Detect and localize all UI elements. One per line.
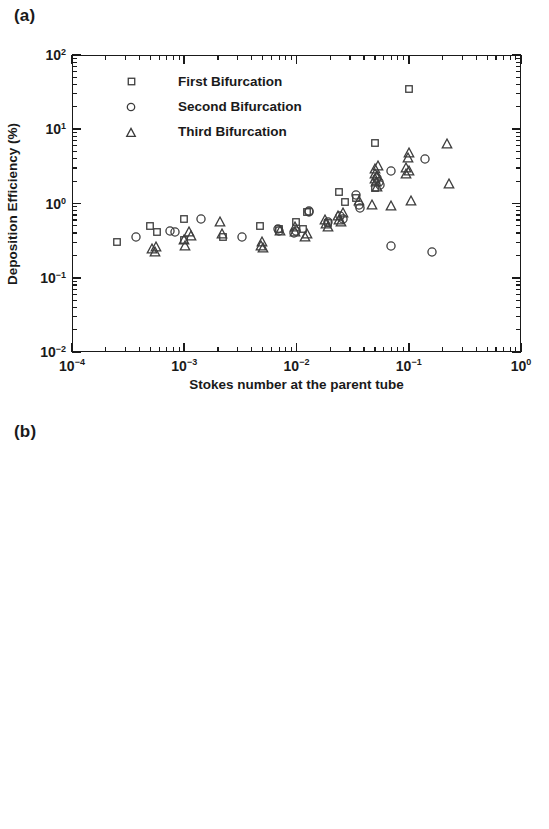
data-point-circle xyxy=(426,247,437,258)
y-tick-minor xyxy=(72,93,77,94)
x-tick-minor xyxy=(285,347,286,352)
x-tick-minor xyxy=(125,55,126,60)
y-tick-minor xyxy=(516,140,521,141)
data-point-triangle xyxy=(442,138,453,149)
y-tick-minor xyxy=(516,329,521,330)
legend-item: First Bifurcation xyxy=(112,69,302,94)
y-tick-major xyxy=(72,277,81,279)
x-tick-minor xyxy=(487,347,488,352)
x-tick-minor xyxy=(442,347,443,352)
y-tick-minor xyxy=(516,136,521,137)
y-tick-minor xyxy=(72,71,77,72)
x-tick-minor xyxy=(391,347,392,352)
legend-item: Third Bifurcation xyxy=(112,119,302,144)
legend-label: First Bifurcation xyxy=(178,74,282,89)
x-tick-minor xyxy=(510,347,511,352)
x-tick-minor xyxy=(279,55,280,60)
y-tick-minor xyxy=(516,284,521,285)
y-tick-minor xyxy=(72,151,77,152)
x-tick-minor xyxy=(271,347,272,352)
x-tick-major xyxy=(296,343,298,352)
data-point-circle xyxy=(386,166,397,177)
data-point-circle xyxy=(195,213,206,224)
y-tick-minor xyxy=(516,167,521,168)
y-tick-minor xyxy=(72,145,77,146)
y-tick-minor xyxy=(516,281,521,282)
y-tick-major xyxy=(512,277,521,279)
x-tick-minor xyxy=(159,347,160,352)
y-tick-minor xyxy=(72,158,77,159)
y-tick-minor xyxy=(516,58,521,59)
x-tick-minor xyxy=(397,55,398,60)
y-tick-minor xyxy=(72,255,77,256)
legend-label: Third Bifurcation xyxy=(178,124,287,139)
y-tick-major xyxy=(72,54,81,56)
x-tick-minor xyxy=(125,347,126,352)
x-tick-minor xyxy=(397,347,398,352)
data-point-triangle xyxy=(353,195,364,206)
plot-area-a: First Bifurcation Second Bifurcation Thi… xyxy=(72,55,521,352)
data-point-square xyxy=(180,214,189,223)
y-tick-minor xyxy=(516,300,521,301)
x-tick-minor xyxy=(383,55,384,60)
x-tick-minor xyxy=(349,55,350,60)
data-point-triangle xyxy=(290,226,301,237)
y-tick-minor xyxy=(516,181,521,182)
y-tick-minor xyxy=(516,225,521,226)
y-tick-minor xyxy=(72,242,77,243)
x-tick-minor xyxy=(159,55,160,60)
data-point-triangle xyxy=(336,216,347,227)
x-tick-major xyxy=(408,55,410,64)
x-tick-label: 10−2 xyxy=(284,357,310,374)
x-tick-minor xyxy=(262,347,263,352)
x-tick-minor xyxy=(150,55,151,60)
data-point-circle xyxy=(386,240,397,251)
panel-b-label: (b) xyxy=(14,422,36,442)
x-tick-minor xyxy=(139,347,140,352)
y-tick-minor xyxy=(72,316,77,317)
data-point-triangle xyxy=(403,146,414,157)
y-tick-major xyxy=(72,351,81,353)
data-point-triangle xyxy=(372,160,383,171)
y-tick-minor xyxy=(516,145,521,146)
x-tick-minor xyxy=(179,55,180,60)
data-point-square xyxy=(335,187,344,196)
y-tick-label: 10−2 xyxy=(40,344,66,361)
data-point-square xyxy=(370,139,379,148)
x-tick-minor xyxy=(251,347,252,352)
y-tick-minor xyxy=(72,84,77,85)
x-tick-minor xyxy=(391,55,392,60)
data-point-triangle xyxy=(180,239,191,250)
y-tick-minor xyxy=(72,232,77,233)
legend-a: First Bifurcation Second Bifurcation Thi… xyxy=(112,69,302,144)
x-tick-minor xyxy=(330,55,331,60)
x-tick-label: 10−3 xyxy=(171,357,197,374)
data-point-square xyxy=(112,238,121,247)
x-tick-minor xyxy=(271,55,272,60)
y-tick-minor xyxy=(516,307,521,308)
data-point-triangle xyxy=(215,216,226,227)
y-tick-minor xyxy=(72,167,77,168)
data-point-circle xyxy=(130,232,141,243)
data-point-triangle xyxy=(406,195,417,206)
x-tick-minor xyxy=(291,347,292,352)
x-tick-major xyxy=(183,55,185,64)
y-tick-minor xyxy=(72,136,77,137)
y-tick-minor xyxy=(72,77,77,78)
y-tick-minor xyxy=(72,140,77,141)
x-tick-minor xyxy=(150,347,151,352)
y-tick-minor xyxy=(72,66,77,67)
y-tick-minor xyxy=(516,62,521,63)
y-tick-minor xyxy=(72,106,77,107)
y-tick-minor xyxy=(516,158,521,159)
y-tick-minor xyxy=(72,219,77,220)
y-tick-minor xyxy=(516,242,521,243)
x-tick-major xyxy=(296,55,298,64)
y-tick-minor xyxy=(72,300,77,301)
x-tick-minor xyxy=(363,347,364,352)
y-tick-minor xyxy=(516,289,521,290)
y-tick-minor xyxy=(72,289,77,290)
x-tick-minor xyxy=(383,347,384,352)
x-tick-minor xyxy=(510,55,511,60)
x-tick-minor xyxy=(403,55,404,60)
